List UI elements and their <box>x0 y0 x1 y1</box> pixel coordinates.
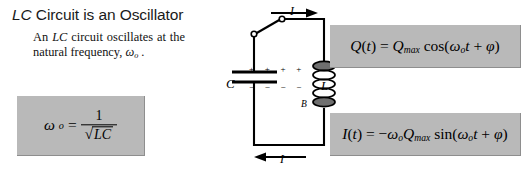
radicand: LC <box>92 126 113 142</box>
current-amplitude: Q <box>403 125 414 142</box>
magnetic-field-label: B <box>301 99 307 109</box>
natural-frequency-equation: ωo = 1 √LC <box>17 109 144 142</box>
charge-trig-function: cos( <box>424 37 450 54</box>
capacitor-negative-charges: − − − − <box>249 82 305 92</box>
equals-sign: = <box>68 116 77 134</box>
current-plus: + <box>477 125 494 142</box>
charge-amplitude: Q <box>393 37 404 54</box>
charge-equals: = <box>380 37 389 54</box>
slide-canvas: LC Circuit is an Oscillator An LC circui… <box>0 0 529 173</box>
title-rest: Circuit is an Oscillator <box>32 6 184 23</box>
current-equals: = <box>366 125 375 142</box>
current-label-top: I <box>290 4 294 19</box>
current-equation: I(t) = −ωoQmax sin(ωot + φ) <box>330 125 520 144</box>
switch-node-left <box>251 31 257 37</box>
charge-phase: φ <box>486 37 495 54</box>
charge-amplitude-subscript: max <box>404 44 420 55</box>
charge-paren-close: ) <box>371 37 376 54</box>
charge-omega: ω <box>449 37 460 54</box>
switch-node-right <box>279 16 285 22</box>
current-phase: φ <box>494 125 503 142</box>
charge-equation-box: Q(t) = Qmax cos(ωot + φ) <box>330 25 521 68</box>
capacitor-label: C <box>226 76 235 92</box>
body-end: . <box>138 45 144 59</box>
wire-top-right <box>282 19 324 62</box>
capacitor-positive-charges: + + + + <box>249 64 305 74</box>
charge-function-name: Q <box>350 37 361 54</box>
current-label-bottom: I <box>280 152 284 167</box>
current-close-paren: ) <box>503 125 508 142</box>
body-pre: An <box>33 30 52 44</box>
current-amplitude-subscript: max <box>414 132 430 143</box>
fraction: 1 √LC <box>81 109 117 142</box>
switch-lever <box>255 19 281 34</box>
fraction-numerator: 1 <box>89 109 108 124</box>
body-omega-symbol: ω <box>125 45 134 59</box>
current-arrow-top <box>271 9 318 18</box>
body-paragraph: An LC circuit oscillates at the natural … <box>33 30 185 63</box>
current-equation-box: I(t) = −ωoQmax sin(ωot + φ) <box>330 113 521 156</box>
lc-circuit-diagram: + + + + − − − − C L B I I <box>224 0 346 173</box>
page-title: LC Circuit is an Oscillator <box>12 6 183 24</box>
inductor-label: L <box>321 78 328 94</box>
current-trig-function: sin( <box>434 125 457 142</box>
current-paren-close: ) <box>357 125 362 142</box>
charge-equation: Q(t) = Qmax cos(ωot + φ) <box>330 37 520 56</box>
body-italic-lc: LC <box>52 30 67 44</box>
charge-close-paren: ) <box>495 37 500 54</box>
title-italic-lc: LC <box>12 6 32 23</box>
current-omega: ω <box>457 125 468 142</box>
charge-plus: + <box>470 37 487 54</box>
current-omega-factor: ω <box>387 125 398 142</box>
natural-frequency-formula-box: ωo = 1 √LC <box>17 96 145 156</box>
omega-symbol: ω <box>44 116 55 134</box>
omega-subscript: o <box>59 120 64 131</box>
fraction-denominator: √LC <box>81 125 117 142</box>
